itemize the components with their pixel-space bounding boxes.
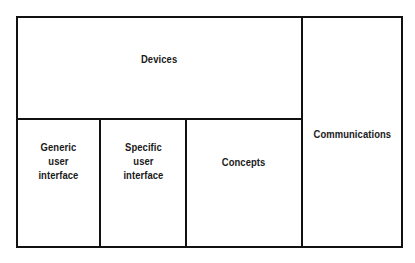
generic-user-interface-block: Generic user interface	[16, 118, 101, 248]
concepts-block: Concepts	[185, 118, 303, 248]
specific-user-interface-block: Specific user interface	[99, 118, 187, 248]
communications-label: Communications	[313, 127, 391, 141]
generic-user-interface-label: Generic user interface	[38, 140, 78, 182]
devices-label: Devices	[141, 52, 177, 66]
devices-block: Devices	[16, 16, 303, 120]
specific-user-interface-label: Specific user interface	[123, 140, 163, 182]
concepts-label: Concepts	[222, 155, 266, 169]
communications-block: Communications	[301, 16, 403, 248]
